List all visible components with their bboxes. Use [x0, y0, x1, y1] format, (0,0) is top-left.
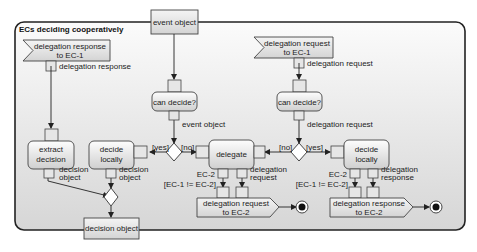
event-object-label: event object — [153, 18, 197, 27]
pin-label-object: object — [119, 173, 141, 182]
action-label: can decide? — [278, 98, 322, 107]
output-pin — [169, 111, 179, 120]
input-pin — [217, 187, 229, 198]
input-pin — [254, 146, 265, 158]
input-pin — [134, 146, 147, 158]
partition-title: ECs deciding cooperatively — [19, 25, 124, 34]
action-label-line2: locally — [355, 155, 377, 164]
final-node-1 — [296, 201, 308, 213]
action-label-line2: locally — [100, 155, 122, 164]
input-pin — [331, 146, 344, 158]
guard-no: [no] — [181, 143, 194, 152]
action-label-line1: extract — [39, 145, 64, 154]
input-pin — [196, 146, 209, 158]
accept-signal-line2: to EC-1 — [56, 51, 84, 60]
accept-signal-line2: to EC-1 — [283, 48, 311, 57]
input-pin — [236, 187, 248, 198]
input-pin — [45, 129, 58, 141]
input-pin — [367, 187, 379, 198]
activity-diagram: ECs deciding cooperatively event object … — [0, 0, 477, 252]
pin-label-request: request — [250, 173, 277, 182]
output-pin — [106, 169, 116, 178]
accept-signal-line1: delegation request — [264, 39, 331, 48]
pin-label-ec2: EC-2 — [329, 170, 348, 179]
action-label-line1: decide — [100, 145, 124, 154]
guard-no: [no] — [279, 143, 292, 152]
input-pin — [168, 80, 181, 92]
accept-signal-delegation-response[interactable]: delegation response to EC-1 — [23, 40, 110, 61]
send-signal-line1: delegation request — [203, 199, 270, 208]
guard-ec1-not-ec2: [EC-1 != EC-2] — [164, 180, 216, 189]
send-signal-line1: delegation response — [333, 199, 406, 208]
pin-label-delegation-response: delegation response — [59, 62, 132, 71]
guard-ec1-not-ec2: [EC-1 != EC-2] — [296, 180, 348, 189]
guard-yes: [yes] — [152, 143, 169, 152]
output-pin-request — [237, 169, 247, 178]
send-signal-line2: to EC-2 — [222, 208, 250, 217]
accept-signal-delegation-request[interactable]: delegation request to EC-1 — [254, 37, 333, 58]
decision-object-node[interactable]: decision object — [84, 218, 139, 239]
action-label: can decide? — [153, 98, 197, 107]
input-pin — [293, 80, 306, 92]
pin-label-delegation-request: delegation request — [307, 59, 374, 68]
accept-signal-line1: delegation response — [34, 42, 107, 51]
action-label-line1: decide — [355, 145, 379, 154]
output-pin — [44, 169, 54, 178]
action-label: delegate — [216, 150, 247, 159]
pin-label-ec2: EC-2 — [197, 170, 216, 179]
output-pin-ec2 — [350, 169, 360, 178]
event-object-node[interactable]: event object — [151, 10, 198, 34]
final-node-2 — [430, 201, 442, 213]
output-pin-response — [368, 169, 378, 178]
guard-yes: [yes] — [306, 143, 323, 152]
send-signal-line2: to EC-2 — [355, 208, 383, 217]
output-pin-ec2 — [218, 169, 228, 178]
pin-label-object: object — [59, 173, 81, 182]
decision-object-label: decision object — [85, 224, 139, 233]
pin-label-event-object: event object — [182, 120, 226, 129]
pin-label-response: response — [381, 173, 414, 182]
input-pin — [349, 187, 361, 198]
pin-label-delegation-request: delegation request — [307, 120, 374, 129]
output-pin — [294, 111, 304, 120]
action-label-line2: decision — [36, 155, 65, 164]
